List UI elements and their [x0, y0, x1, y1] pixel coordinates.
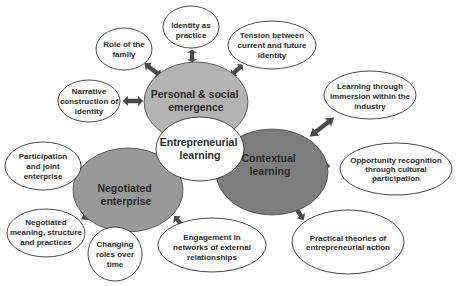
node-practical-theories: Practical theories ofentrepreneurial act…	[292, 210, 404, 274]
node-role-of-the-family: Role of thefamily	[96, 28, 152, 70]
entrepreneurial-learning-diagram: Personal & social emergence Negotiated e…	[0, 0, 462, 286]
svg-text:Identity aspractice: Identity aspractice	[171, 21, 211, 40]
node-negotiated-meaning: Negotiatedmeaning, structureand practice…	[7, 209, 85, 257]
arrow-identity-practice	[187, 49, 197, 62]
node-opportunity-recognition: Opportunity recognitionthrough culturalp…	[340, 143, 452, 195]
node-participation-joint-enterprise: Participationand jointenterprise	[5, 142, 81, 190]
arrow-narrative	[123, 96, 143, 106]
theme-label-contextual: Contextual learning	[241, 152, 298, 177]
svg-text:Practical theories ofentrepren: Practical theories ofentrepreneurial act…	[306, 234, 390, 252]
theme-label-negotiated: Negotiated enterprise	[97, 182, 154, 207]
node-learning-through-immersion: Learning throughimmersion within theindu…	[324, 71, 416, 119]
node-narrative-construction: Narrativeconstruction ofidentity	[58, 80, 120, 122]
node-engagement-networks: Engagement innetworks of externalrelatio…	[158, 218, 266, 272]
node-changing-roles: Changingroles overtime	[88, 227, 142, 281]
arrow-immersion	[307, 113, 338, 140]
node-tension-identity: Tension betweencurrent and futureidentit…	[228, 21, 316, 69]
node-identity-as-practice: Identity aspractice	[163, 6, 219, 48]
